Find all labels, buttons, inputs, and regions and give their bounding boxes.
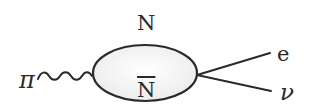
diagram-canvas	[0, 0, 315, 110]
electron-line	[197, 53, 270, 75]
antinucleon-label: N	[137, 80, 155, 101]
electron-label: e	[277, 44, 289, 65]
neutrino-label: ν	[280, 81, 294, 104]
pion-wavy-line	[38, 72, 92, 80]
nucleon-label: N	[137, 13, 155, 34]
pion-label: π	[19, 68, 35, 92]
feynman-diagram: π N N e ν	[0, 0, 315, 110]
neutrino-line	[197, 75, 271, 91]
